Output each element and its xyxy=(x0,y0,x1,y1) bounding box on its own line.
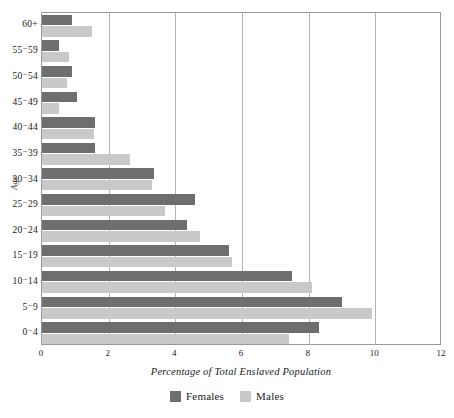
bar-males xyxy=(42,206,165,217)
y-tick-label: 35⁻39 xyxy=(0,147,38,158)
y-tick-label: 20⁻24 xyxy=(0,224,38,235)
bar-group xyxy=(42,115,440,141)
y-tick-label: 10⁻14 xyxy=(0,275,38,286)
bar-males xyxy=(42,78,67,89)
legend-label: Males xyxy=(256,390,284,402)
bar-group xyxy=(42,320,440,345)
bar-group xyxy=(42,13,440,39)
y-tick-label: 5⁻9 xyxy=(0,301,38,312)
x-axis-title: Percentage of Total Enslaved Population xyxy=(41,366,441,377)
bar-females xyxy=(42,245,229,256)
bar-females xyxy=(42,92,77,103)
bar-males xyxy=(42,52,69,63)
x-tick-label: 6 xyxy=(226,348,256,358)
bar-males xyxy=(42,308,372,319)
bar-males xyxy=(42,282,312,293)
bar-females xyxy=(42,322,319,333)
bar-females xyxy=(42,66,72,77)
y-tick-label: 50⁻54 xyxy=(0,70,38,81)
bar-group xyxy=(42,167,440,193)
bar-group xyxy=(42,141,440,167)
bar-females xyxy=(42,40,59,51)
bar-group xyxy=(42,39,440,65)
x-tick-label: 0 xyxy=(26,348,56,358)
bar-females xyxy=(42,220,187,231)
legend-swatch-icon xyxy=(170,391,181,402)
bar-males xyxy=(42,257,232,268)
y-axis-tick-labels: 60+55⁻5950⁻5445⁻4940⁻4435⁻3930⁻3425⁻2920… xyxy=(0,12,38,345)
bar-group xyxy=(42,64,440,90)
bar-group xyxy=(42,192,440,218)
legend-swatch-icon xyxy=(240,391,251,402)
bar-males xyxy=(42,26,92,37)
bar-females xyxy=(42,194,195,205)
legend-item: Females xyxy=(170,390,224,402)
y-tick-label: 0⁻4 xyxy=(0,326,38,337)
bar-group xyxy=(42,295,440,321)
x-tick-label: 10 xyxy=(359,348,389,358)
bar-males xyxy=(42,129,94,140)
plot-area xyxy=(41,12,441,345)
y-tick-label: 25⁻29 xyxy=(0,198,38,209)
y-tick-label: 60+ xyxy=(0,19,38,29)
bar-group xyxy=(42,269,440,295)
chart-legend: FemalesMales xyxy=(0,390,454,402)
x-tick-label: 12 xyxy=(426,348,454,358)
bar-group xyxy=(42,218,440,244)
bar-males xyxy=(42,231,200,242)
x-axis-tick-labels: 024681012 xyxy=(41,348,441,364)
y-tick-label: 40⁻44 xyxy=(0,121,38,132)
legend-label: Females xyxy=(186,390,224,402)
x-tick-label: 8 xyxy=(293,348,323,358)
y-tick-label: 55⁻59 xyxy=(0,44,38,55)
bar-chart: Age 60+55⁻5950⁻5445⁻4940⁻4435⁻3930⁻3425⁻… xyxy=(0,0,454,418)
bar-males xyxy=(42,334,289,345)
bar-females xyxy=(42,143,95,154)
bar-females xyxy=(42,168,154,179)
legend-item: Males xyxy=(240,390,284,402)
bar-females xyxy=(42,271,292,282)
bar-group xyxy=(42,244,440,270)
y-tick-label: 30⁻34 xyxy=(0,173,38,184)
bar-females xyxy=(42,297,342,308)
y-tick-label: 45⁻49 xyxy=(0,96,38,107)
bar-males xyxy=(42,154,130,165)
bar-males xyxy=(42,103,59,114)
bar-group xyxy=(42,90,440,116)
bar-females xyxy=(42,117,95,128)
y-tick-label: 15⁻19 xyxy=(0,249,38,260)
bar-males xyxy=(42,180,152,191)
x-tick-label: 4 xyxy=(159,348,189,358)
bar-females xyxy=(42,15,72,26)
x-tick-label: 2 xyxy=(93,348,123,358)
